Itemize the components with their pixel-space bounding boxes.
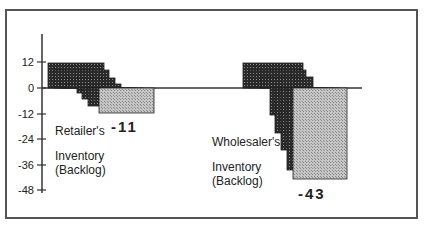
retailer-bars — [48, 63, 154, 113]
wholesaler-value-label: -43 — [298, 185, 326, 202]
retailer-label-line3: (Backlog) — [55, 163, 106, 177]
wholesaler-label-line1: Wholesaler's — [212, 135, 280, 149]
tick-label-0: 0 — [28, 82, 34, 94]
wholesaler-final-bar — [293, 88, 347, 179]
tick-label-neg12: -12 — [18, 108, 34, 120]
retailer-label-line2: Inventory — [55, 149, 104, 163]
retailer-final-bar — [99, 88, 154, 113]
tick-label-neg48: -48 — [18, 184, 34, 196]
retailer-value-label: -11 — [111, 118, 138, 135]
wholesaler-label-line3: (Backlog) — [212, 174, 263, 188]
wholesaler-label-line2: Inventory — [212, 160, 261, 174]
tick-label-12: 12 — [22, 56, 34, 68]
tick-label-neg36: -36 — [18, 159, 34, 171]
chart-svg: 12 0 -12 -24 -36 -48 Retailer's Inventor… — [0, 0, 424, 227]
retailer-label-line1: Retailer's — [55, 124, 105, 138]
tick-label-neg24: -24 — [18, 133, 34, 145]
